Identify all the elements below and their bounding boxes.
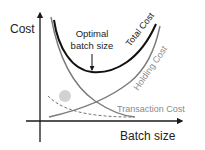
total-cost-label: Total Cost — [124, 10, 157, 48]
holding-cost-label: Holding Cost — [131, 44, 169, 92]
y-axis-label: Cost — [10, 22, 35, 36]
highlight-ellipse — [59, 90, 71, 102]
transaction-cost-label: Transaction Cost — [117, 104, 185, 114]
x-axis-label: Batch size — [120, 129, 176, 143]
cost-diagram: Cost Batch size Optimal batch size Total… — [0, 0, 205, 150]
optimal-label-line1: Optimal — [76, 28, 109, 39]
optimal-label-line2: batch size — [71, 40, 114, 51]
